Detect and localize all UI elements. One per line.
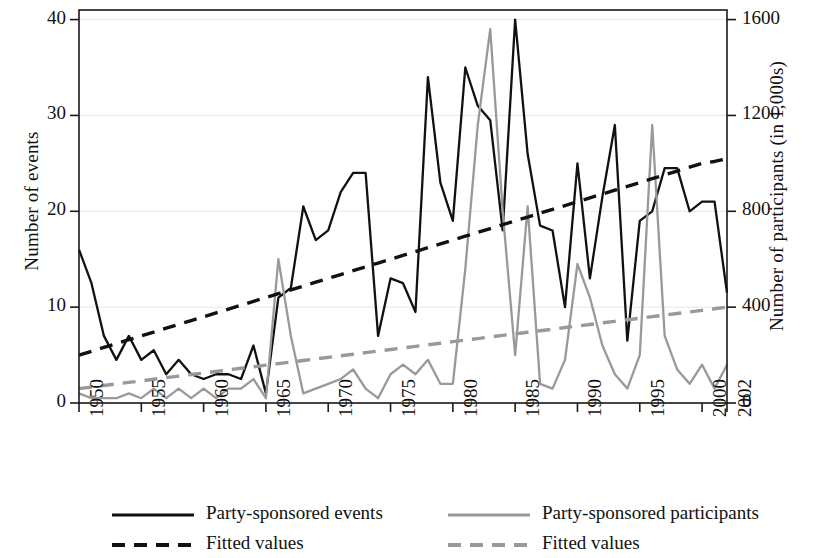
plot-canvas xyxy=(0,0,829,558)
x-axis-tick-label: 1995 xyxy=(647,379,669,417)
tick-marks xyxy=(70,20,736,412)
y-axis-right-tick-label: 400 xyxy=(742,294,771,316)
x-axis-tick-label: 1955 xyxy=(148,379,170,417)
x-axis-tick-label: 1950 xyxy=(86,379,108,417)
x-axis-tick-label: 1970 xyxy=(335,379,357,417)
x-axis-tick-label: 2002 xyxy=(734,379,756,417)
gridlines xyxy=(79,20,727,403)
series-line-1 xyxy=(79,29,727,398)
x-axis-tick-label: 1960 xyxy=(211,379,233,417)
x-axis-tick-label: 1980 xyxy=(460,379,482,417)
x-axis-tick-label: 2000 xyxy=(709,379,731,417)
y-axis-left-tick-label: 10 xyxy=(10,294,66,316)
series-line-0 xyxy=(79,20,727,394)
x-axis-tick-label: 1965 xyxy=(273,379,295,417)
legend-label: Party-sponsored participants xyxy=(542,502,759,524)
plot-border xyxy=(79,10,727,403)
y-axis-right-tick-label: 1600 xyxy=(742,7,780,29)
chart-figure: Number of events Number of participants … xyxy=(0,0,829,558)
x-axis-tick-label: 1990 xyxy=(584,379,606,417)
y-axis-left-tick-label: 30 xyxy=(10,102,66,124)
x-axis-tick-label: 1985 xyxy=(522,379,544,417)
legend-label: Party-sponsored events xyxy=(206,502,383,524)
series-line-3 xyxy=(79,307,727,388)
y-axis-left-tick-label: 40 xyxy=(10,7,66,29)
axis-frame xyxy=(79,10,727,403)
y-axis-right-tick-label: 1200 xyxy=(742,102,780,124)
x-axis-tick-label: 1975 xyxy=(398,379,420,417)
y-axis-left-tick-label: 0 xyxy=(10,390,66,412)
y-axis-right-tick-label: 800 xyxy=(742,198,771,220)
legend-label: Fitted values xyxy=(206,532,304,554)
legend-label: Fitted values xyxy=(542,532,640,554)
y-axis-left-tick-label: 20 xyxy=(10,198,66,220)
series-layer xyxy=(79,20,727,399)
